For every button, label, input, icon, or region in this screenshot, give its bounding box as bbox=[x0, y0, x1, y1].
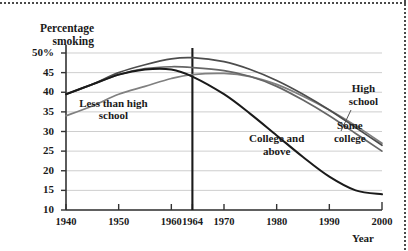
y-tick-label: 10 bbox=[14, 204, 54, 215]
y-tick-label: 25 bbox=[14, 145, 54, 156]
x-tick-label: 1940 bbox=[46, 216, 86, 227]
x-tick-label: 1970 bbox=[204, 216, 244, 227]
y-tick-label: 50% bbox=[14, 47, 54, 58]
y-tick-label: 15 bbox=[14, 184, 54, 195]
series-label-high-school: High school bbox=[338, 82, 388, 107]
series-label-college-and-above: College and above bbox=[241, 132, 313, 157]
x-tick-label: 1990 bbox=[309, 216, 349, 227]
y-tick-label: 40 bbox=[14, 86, 54, 97]
y-tick-label: 35 bbox=[14, 106, 54, 117]
x-tick-label: 2000 bbox=[362, 216, 402, 227]
series-label-some-college: Some college bbox=[324, 119, 376, 144]
x-tick-label: 1980 bbox=[257, 216, 297, 227]
y-tick-label: 45 bbox=[14, 67, 54, 78]
y-tick-label: 30 bbox=[14, 126, 54, 137]
chart-figure: Percentage smoking Year 1015202530354045… bbox=[0, 0, 408, 251]
x-tick-label: 1950 bbox=[99, 216, 139, 227]
series-label-less-than-high-school: Less than high school bbox=[75, 97, 151, 122]
y-tick-label: 20 bbox=[14, 165, 54, 176]
